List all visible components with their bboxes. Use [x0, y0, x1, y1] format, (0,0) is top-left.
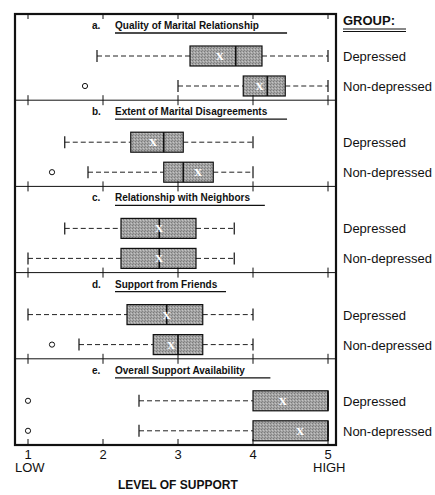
- box: [190, 46, 262, 66]
- legend: GROUP:: [343, 13, 406, 32]
- panels-group: a.Quality of Marital RelationshipXXb.Ext…: [15, 14, 336, 441]
- mean-marker: X: [155, 223, 163, 234]
- group-label-depressed: Depressed: [343, 394, 406, 409]
- x-axis: 12345: [24, 439, 331, 462]
- mean-marker: X: [216, 51, 224, 62]
- box: [243, 76, 285, 96]
- group-label-non-depressed: Non-depressed: [343, 251, 432, 266]
- x-axis-title: LEVEL OF SUPPORT: [118, 478, 238, 492]
- series-non-depressed: X: [25, 421, 328, 441]
- x-tick-label: 2: [99, 447, 106, 462]
- mean-marker: X: [163, 310, 171, 321]
- group-label-depressed: Depressed: [343, 221, 406, 236]
- box: [253, 391, 328, 411]
- mean-marker: X: [194, 167, 202, 178]
- mean-marker: X: [279, 396, 287, 407]
- series-depressed: X: [65, 132, 253, 152]
- series-non-depressed: X: [49, 335, 253, 355]
- x-tick-label: 4: [249, 447, 256, 462]
- outlier-point: [82, 83, 87, 88]
- panel-title: Overall Support Availability: [115, 365, 245, 376]
- panel-letter: b.: [92, 106, 101, 117]
- panel-title: Relationship with Neighbors: [115, 192, 250, 203]
- mean-marker: X: [256, 81, 264, 92]
- panel-letter: e.: [92, 365, 101, 376]
- mean-marker: X: [296, 426, 304, 437]
- mean-marker: X: [149, 137, 157, 148]
- panel-letter: c.: [92, 192, 101, 203]
- panel-c: c.Relationship with NeighborsXX: [15, 181, 336, 268]
- group-label-depressed: Depressed: [343, 49, 406, 64]
- boxplot-chart: a.Quality of Marital RelationshipXXb.Ext…: [0, 0, 435, 495]
- outlier-point: [25, 428, 30, 433]
- group-label-non-depressed: Non-depressed: [343, 338, 432, 353]
- panel-b: b.Extent of Marital DisagreementsXX: [15, 95, 336, 182]
- series-depressed: X: [65, 218, 235, 238]
- group-label-non-depressed: Non-depressed: [343, 165, 432, 180]
- series-non-depressed: X: [49, 162, 253, 182]
- outlier-point: [25, 398, 30, 403]
- outlier-point: [49, 342, 54, 347]
- series-non-depressed: X: [82, 76, 328, 96]
- outlier-point: [49, 170, 54, 175]
- panel-title: Support from Friends: [115, 279, 218, 290]
- panel-a: a.Quality of Marital RelationshipXX: [28, 14, 328, 96]
- box: [253, 421, 328, 441]
- group-label-depressed: Depressed: [343, 308, 406, 323]
- group-label-non-depressed: Non-depressed: [343, 424, 432, 439]
- series-depressed: X: [28, 305, 253, 325]
- panel-d: d.Support from FriendsXX: [15, 268, 336, 355]
- group-labels: DepressedNon-depressedDepressedNon-depre…: [343, 49, 432, 439]
- box: [164, 162, 214, 182]
- x-low-label: LOW: [15, 460, 45, 475]
- panel-e: e.Overall Support AvailabilityXX: [15, 354, 336, 441]
- series-non-depressed: X: [28, 248, 234, 268]
- mean-marker: X: [167, 340, 175, 351]
- series-depressed: X: [25, 391, 328, 411]
- group-label-non-depressed: Non-depressed: [343, 79, 432, 94]
- panel-title: Extent of Marital Disagreements: [115, 106, 268, 117]
- panel-title: Quality of Marital Relationship: [115, 20, 259, 31]
- panel-letter: d.: [92, 279, 101, 290]
- mean-marker: X: [155, 253, 163, 264]
- legend-title: GROUP:: [343, 13, 395, 28]
- group-label-depressed: Depressed: [343, 135, 406, 150]
- series-depressed: X: [97, 46, 328, 66]
- panel-letter: a.: [92, 20, 101, 31]
- x-tick-label: 3: [174, 447, 181, 462]
- x-high-label: HIGH: [313, 460, 346, 475]
